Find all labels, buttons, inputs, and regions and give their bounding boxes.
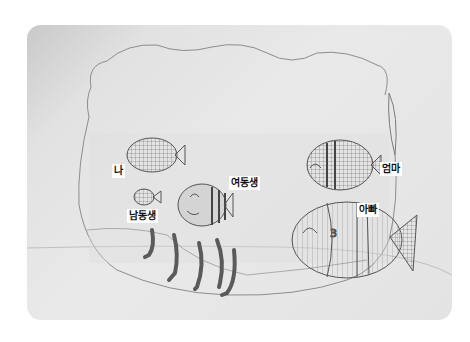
fish-dad: 3 bbox=[292, 202, 417, 278]
svg-text:3: 3 bbox=[330, 227, 337, 240]
label-mom: 엄마 bbox=[380, 162, 402, 176]
label-younger-brother: 남동생 bbox=[127, 209, 158, 223]
label-dad: 아빠 bbox=[357, 203, 379, 217]
label-me: 나 bbox=[112, 164, 125, 178]
drawing-photo: 3 나 남동생 여동생 엄마 아빠 bbox=[27, 25, 452, 320]
label-younger-sister: 여동생 bbox=[229, 176, 260, 190]
